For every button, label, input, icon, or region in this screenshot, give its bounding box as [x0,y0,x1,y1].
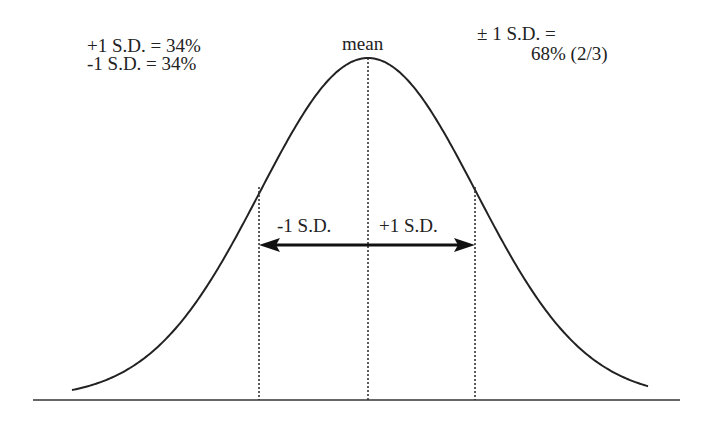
minus-sd-label: -1 S.D. [277,216,331,236]
minus-sd-percent-label: -1 S.D. = 34% [87,54,196,74]
within-sd-label-line2: 68% (2/3) [531,44,608,64]
plus-sd-label: +1 S.D. [379,216,438,236]
bell-curve [72,58,648,390]
double-arrow [259,238,475,252]
mean-label: mean [342,34,383,54]
within-sd-label-line1: ± 1 S.D. = [477,24,556,44]
